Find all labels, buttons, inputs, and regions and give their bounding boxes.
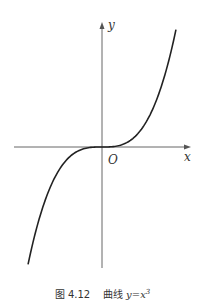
x-axis-arrow-icon bbox=[184, 145, 191, 150]
x-axis-label: x bbox=[184, 150, 191, 164]
figure-number: 图 4.12 bbox=[55, 289, 90, 300]
figure-equation: y=x3 bbox=[126, 289, 150, 300]
y-axis-arrow-icon bbox=[100, 22, 105, 29]
cubic-curve-figure bbox=[0, 0, 205, 303]
figure-title: 曲线 bbox=[103, 289, 123, 300]
y-axis-label: y bbox=[108, 18, 115, 32]
figure-caption: 图 4.12 曲线 y=x3 bbox=[0, 286, 205, 301]
origin-label: O bbox=[108, 153, 118, 167]
